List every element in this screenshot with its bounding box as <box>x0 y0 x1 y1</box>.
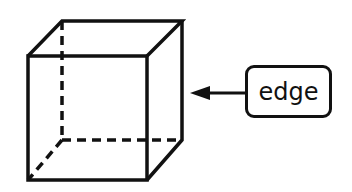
edge-label-text: edge <box>259 78 319 106</box>
top-face-edges <box>28 21 182 56</box>
arrow-head-icon <box>190 86 210 100</box>
hidden-edge-depth <box>28 140 62 180</box>
front-face <box>28 56 147 180</box>
pointer-arrow <box>190 86 245 100</box>
right-face-edges <box>147 21 182 180</box>
edge-label: edge <box>245 65 332 118</box>
